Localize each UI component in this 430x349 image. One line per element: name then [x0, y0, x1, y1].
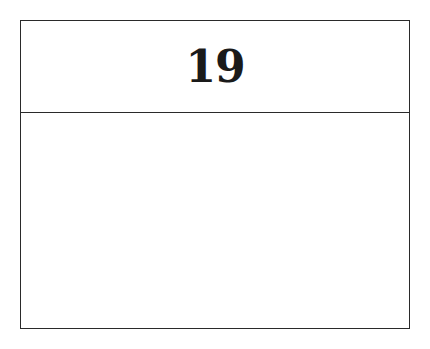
card-number: 19	[185, 41, 244, 92]
card-header: 19	[21, 21, 409, 113]
card-body	[21, 113, 409, 328]
numbered-card: 19	[20, 20, 410, 329]
